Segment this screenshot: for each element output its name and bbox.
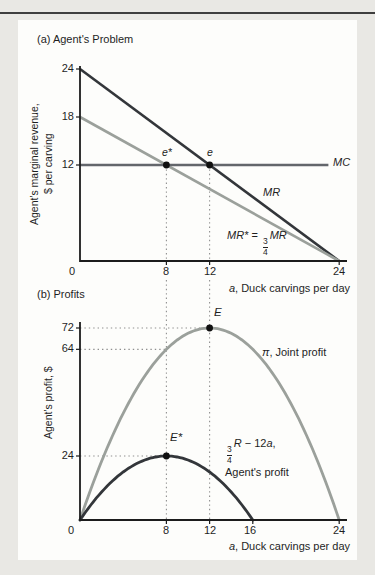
joint-profit-text: , Joint profit	[269, 346, 326, 358]
panel-b-ytick-64: 64	[44, 342, 74, 355]
agent-profit-fraction: 34	[227, 445, 232, 466]
panel-a-xtick-24: 24	[327, 265, 351, 278]
panel-a-ytick-24: 24	[44, 62, 74, 75]
mrstar-curve-label: MR* = 34MR	[227, 229, 287, 258]
panel-a-ytick-18: 18	[44, 110, 74, 123]
panel-b-xtick-12: 12	[198, 524, 222, 537]
point-Estar-label: E*	[170, 431, 182, 445]
mc-curve-label: MC	[333, 156, 350, 169]
agent-profit-caption: Agent's profit	[225, 466, 289, 479]
agent-profit-fraction-denominator: 4	[227, 455, 232, 466]
mrstar-fraction: 34	[263, 237, 268, 258]
panel-a-ytick-12: 12	[44, 158, 74, 171]
panel-a-xtick-0: 0	[60, 265, 84, 278]
agent-profit-fraction-numerator: 3	[227, 445, 232, 455]
panel-b-xtick-0: 0	[59, 524, 83, 537]
panel-a-x-axis-label: a, Duck carvings per day	[150, 282, 350, 295]
joint-profit-curve-label: π, Joint profit	[262, 346, 326, 359]
panel-a-title: (a) Agent's Problem	[37, 33, 133, 46]
point-estar-label: e*	[162, 146, 172, 159]
panel-a-x-axis-label-text: , Duck carvings per day	[235, 282, 350, 294]
agent-profit-curve-label: 34R − 12a, Agent's profit	[225, 437, 289, 479]
point-E-label: E	[214, 306, 222, 320]
panel-b-xtick-16: 16	[238, 524, 262, 537]
agent-profit-R: R	[234, 437, 242, 449]
mrstar-fraction-denominator: 4	[263, 247, 268, 258]
panel-b-x-axis-label: a, Duck carvings per day	[150, 540, 350, 553]
page-top-rule	[0, 12, 375, 14]
panel-b-xtick-8: 8	[154, 524, 178, 537]
mrstar-equals: =	[248, 229, 261, 241]
panel-a-xtick-12: 12	[198, 265, 222, 278]
agent-profit-formula: 34R − 12a,	[225, 437, 289, 466]
mrstar-rhs: MR	[270, 229, 287, 241]
panel-a-xtick-8: 8	[154, 265, 178, 278]
panel-b-x-axis-label-text: , Duck carvings per day	[235, 540, 350, 552]
figure-page: (a) Agent's Problem Agent's marginal rev…	[0, 0, 375, 575]
point-e-label: e	[207, 146, 213, 159]
mrstar-fraction-numerator: 3	[263, 237, 268, 247]
agent-profit-mid: − 12	[242, 437, 267, 449]
panel-b-title: (b) Profits	[37, 288, 85, 301]
panel-a-y-axis-label-line1: Agent's marginal revenue,	[28, 66, 42, 262]
panel-b-ytick-72: 72	[44, 321, 74, 334]
mrstar-lhs: MR*	[227, 229, 248, 241]
mr-curve-label: MR	[263, 186, 280, 199]
panel-b-ytick-24: 24	[44, 449, 74, 462]
panel-b-xtick-24: 24	[327, 524, 351, 537]
agent-profit-comma: ,	[273, 437, 276, 449]
